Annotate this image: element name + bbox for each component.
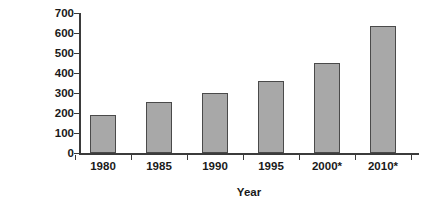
- y-axis-tick-labels: 7006005004003002001000: [30, 0, 74, 216]
- bar: [146, 102, 172, 153]
- y-axis-tick-row: 200: [30, 113, 74, 123]
- x-axis-title: Year: [79, 186, 419, 198]
- y-axis-tick-mark: [74, 53, 79, 54]
- y-axis-tick-label: 600: [30, 28, 74, 38]
- y-axis-tick-label: 400: [30, 68, 74, 78]
- bar: [90, 115, 116, 153]
- y-axis-tick-label: 0: [30, 148, 74, 158]
- y-axis-tick-label: 500: [30, 48, 74, 58]
- y-axis-tick-mark: [74, 113, 79, 114]
- y-axis-tick-mark: [74, 133, 79, 134]
- y-axis-tick-label: 200: [30, 108, 74, 118]
- x-axis-line: [79, 153, 419, 155]
- bar: [202, 93, 228, 153]
- y-axis-tick-row: 700: [30, 13, 74, 23]
- y-axis-tick-row: 100: [30, 133, 74, 143]
- y-axis-tick-label: 700: [30, 8, 74, 18]
- plot-area: [79, 13, 419, 155]
- y-axis-tick-row: 600: [30, 33, 74, 43]
- bar: [258, 81, 284, 153]
- y-axis-tick-row: 300: [30, 93, 74, 103]
- y-axis-tick-row: 500: [30, 53, 74, 63]
- y-axis-tick-mark: [74, 73, 79, 74]
- y-axis-tick-row: 400: [30, 73, 74, 83]
- y-axis-tick-mark: [74, 93, 79, 94]
- y-axis-tick-label: 100: [30, 128, 74, 138]
- x-axis-tick-label: 2010*: [348, 160, 418, 172]
- y-axis-line: [79, 13, 81, 155]
- bar: [370, 26, 396, 153]
- y-axis-tick-mark: [74, 153, 79, 154]
- y-axis-tick-mark: [74, 33, 79, 34]
- y-axis-tick-mark: [74, 13, 79, 14]
- bar: [314, 63, 340, 153]
- y-axis-tick-label: 300: [30, 88, 74, 98]
- bar-chart: Population (millions) 700600500400300200…: [0, 0, 438, 216]
